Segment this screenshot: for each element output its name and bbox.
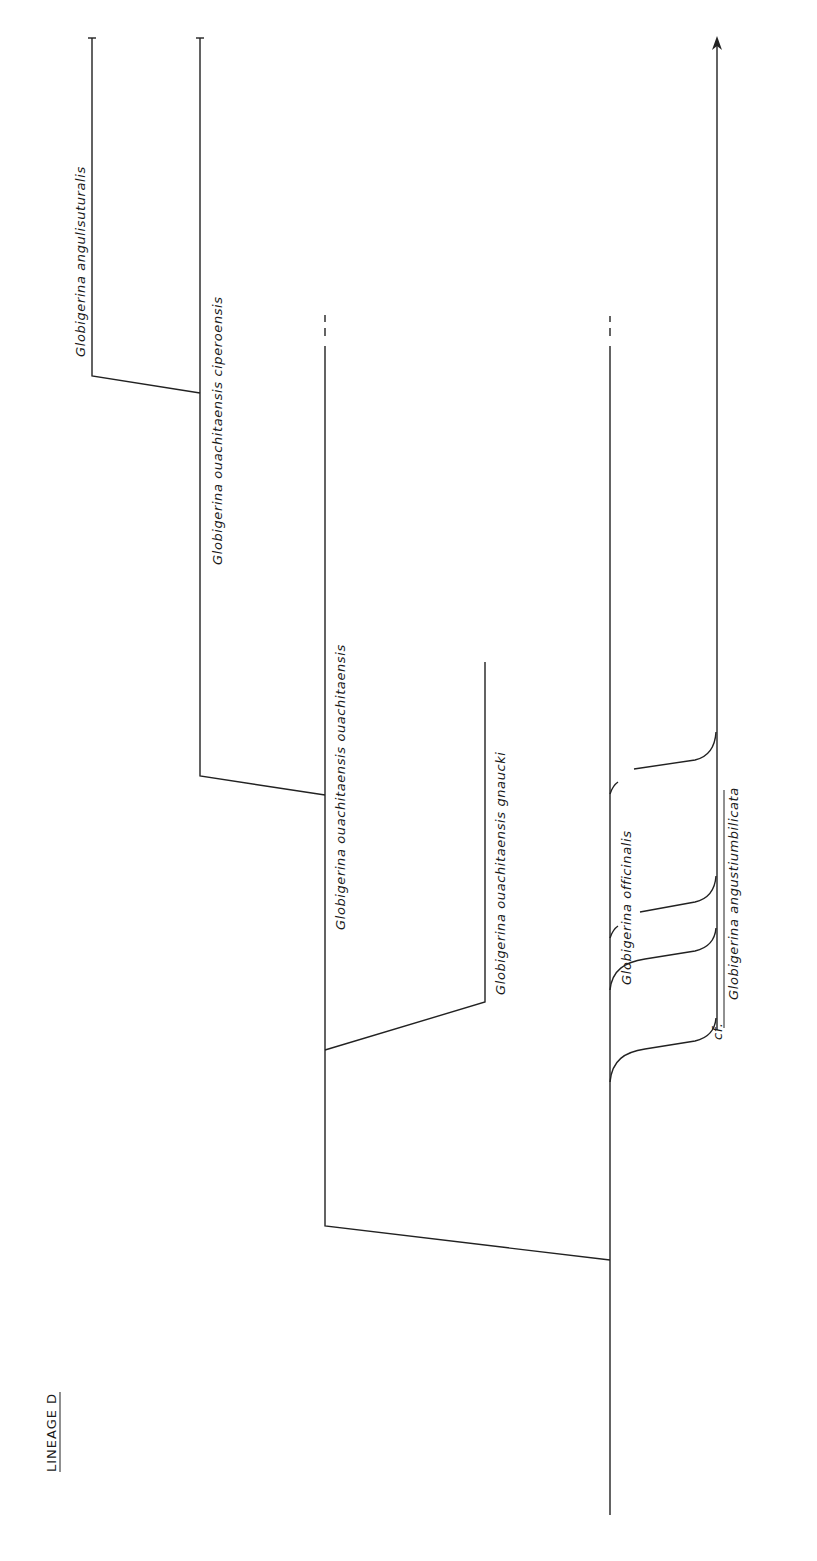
label-ciperoensis: Globigerina ouachitaensis ciperoensis bbox=[210, 296, 225, 565]
curve-branch-4 bbox=[634, 732, 716, 769]
lineage-diagram: LINEAGE D Globigerina angulisuturalis Gl… bbox=[0, 0, 817, 1561]
curve-small-tick-1 bbox=[610, 926, 618, 938]
label-ouachitaensis: Globigerina ouachitaensis ouachitaensis bbox=[333, 644, 348, 930]
label-angulisuturalis: Globigerina angulisuturalis bbox=[73, 166, 88, 357]
branch-ouachitaensis bbox=[325, 315, 610, 1260]
label-officinalis: Globigerina officinalis bbox=[619, 830, 634, 985]
label-cf: cf. bbox=[710, 1023, 725, 1040]
lineage-angustiumbilicata bbox=[712, 36, 722, 1030]
branch-angulisuturalis bbox=[88, 38, 200, 393]
diagram-title: LINEAGE D bbox=[44, 1392, 60, 1472]
curve-small-tick-2 bbox=[610, 782, 618, 794]
label-angustiumbilicata: Globigerina angustiumbilicata bbox=[726, 787, 741, 1000]
label-gnaucki: Globigerina ouachitaensis gnaucki bbox=[493, 751, 508, 995]
branch-gnaucki bbox=[325, 662, 485, 1050]
curve-branch-3 bbox=[640, 876, 716, 912]
curve-branch-cf bbox=[610, 1018, 716, 1082]
svg-text:LINEAGE D: LINEAGE D bbox=[44, 1393, 59, 1472]
